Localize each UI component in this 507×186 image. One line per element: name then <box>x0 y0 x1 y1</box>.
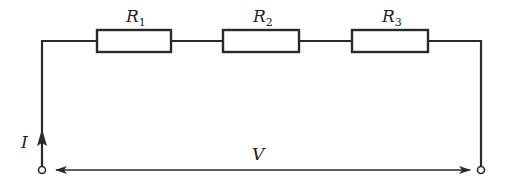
right-terminal <box>478 167 485 174</box>
left-terminal <box>39 167 46 174</box>
series-circuit-diagram: R1 R2 R3 I V <box>0 0 507 186</box>
resistor-r2-label: R2 <box>252 6 273 29</box>
current-label: I <box>20 132 28 152</box>
resistor-r3-label: R3 <box>381 6 402 29</box>
resistor-r1-label: R1 <box>125 6 146 29</box>
resistor-r1: R1 <box>97 6 171 52</box>
resistor-r2: R2 <box>223 6 299 52</box>
voltage-label: V <box>252 144 266 164</box>
resistor-r3: R3 <box>352 6 428 52</box>
